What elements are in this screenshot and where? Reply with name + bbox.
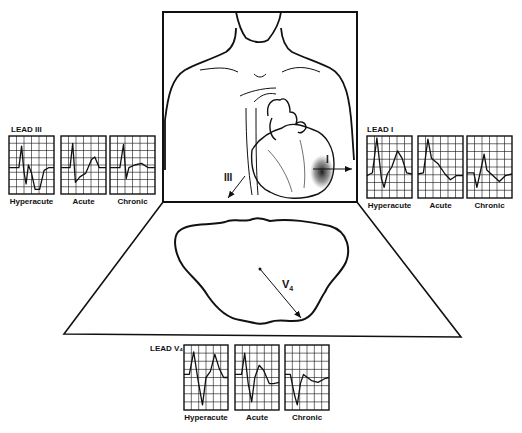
ecg-strip-label: Chronic: [292, 413, 323, 422]
ecg-strip-hyperacute: Hyperacute: [367, 136, 412, 210]
ecg-strip-label: Chronic: [474, 201, 505, 210]
ecg-strip-acute: Acute: [235, 345, 279, 422]
ecg-strip-label: Chronic: [117, 197, 148, 206]
ecg-strip-label: Hyperacute: [184, 413, 228, 422]
ecg-strip-label: Hyperacute: [10, 197, 54, 206]
lead-iii-title: LEAD III: [11, 125, 42, 134]
lead-v4-panel: LEAD V₄ HyperacuteAcuteChronic: [150, 344, 329, 422]
lead-i-vector-label: I: [326, 154, 329, 165]
ecg-strip-hyperacute: Hyperacute: [184, 345, 228, 422]
lead-v4-title: LEAD V₄: [150, 344, 183, 353]
ecg-strip-chronic: Chronic: [110, 136, 155, 206]
lead-iii-panel: LEAD III HyperacuteAcuteChronic: [9, 125, 155, 206]
ecg-strip-chronic: Chronic: [467, 136, 512, 210]
ecg-strip-label: Acute: [246, 413, 269, 422]
torso-outline: [165, 12, 354, 170]
ecg-strip-label: Acute: [429, 201, 452, 210]
ecg-strip-acute: Acute: [418, 136, 463, 210]
ecg-infarct-diagram: I III V4 LEAD III HyperacuteAcuteChronic…: [0, 0, 522, 433]
ecg-strip-label: Hyperacute: [368, 201, 412, 210]
ecg-strip-hyperacute: Hyperacute: [9, 136, 54, 206]
lead-iii-vector-label: III: [224, 172, 233, 183]
ecg-strip-acute: Acute: [61, 136, 106, 206]
v4-subscript: 4: [289, 285, 293, 292]
lead-i-panel: LEAD I HyperacuteAcuteChronic: [367, 125, 512, 210]
ecg-strip-label: Acute: [72, 197, 95, 206]
lead-v4-vector-label: V4: [282, 278, 293, 292]
infarct-region: [310, 155, 334, 189]
horizontal-plane-frame: [64, 202, 461, 337]
lead-i-title: LEAD I: [367, 125, 393, 134]
lead-v4-vector-arrow: [260, 269, 301, 318]
ecg-strip-chronic: Chronic: [285, 345, 329, 422]
